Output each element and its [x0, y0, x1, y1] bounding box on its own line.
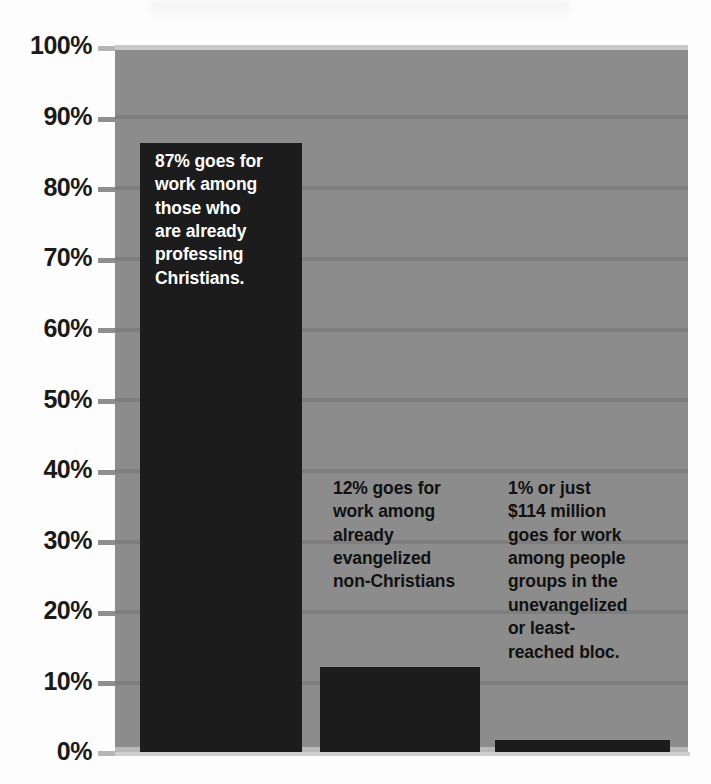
- bar-3-line-4: among people: [508, 547, 683, 570]
- bar-chart: 100% 90% 80% 70% 60% 50% 40% 30% 20% 10%…: [0, 0, 711, 784]
- y-axis-label-60: 60%: [0, 316, 92, 341]
- bar-3-line-5: groups in the: [508, 570, 683, 593]
- y-axis-label-50: 50%: [0, 387, 92, 412]
- bar-3-line-3: goes for work: [508, 524, 683, 547]
- gridline-90: [115, 115, 688, 119]
- bar-unevangelized-least-reached[interactable]: [495, 740, 670, 752]
- bar-3-line-1: 1% or just: [508, 477, 683, 500]
- bar-1-line-2: work among: [155, 173, 305, 196]
- bar-3-annotation: 1% or just $114 million goes for work am…: [508, 477, 683, 664]
- y-axis-label-40: 40%: [0, 457, 92, 482]
- y-axis-label-70: 70%: [0, 245, 92, 270]
- y-axis-label-20: 20%: [0, 598, 92, 623]
- bar-3-line-6: unevangelized: [508, 594, 683, 617]
- gridline-100: [115, 45, 688, 50]
- bar-1-line-6: Christians.: [155, 267, 305, 290]
- bar-evangelized-non-christians[interactable]: [320, 667, 480, 752]
- bar-3-line-2: $114 million: [508, 500, 683, 523]
- bar-2-line-2: work among: [333, 500, 493, 523]
- bar-1-line-3: those who: [155, 197, 305, 220]
- cropped-title-remnant: [150, 0, 570, 22]
- bar-3-line-7: or least-: [508, 617, 683, 640]
- bar-2-line-1: 12% goes for: [333, 477, 493, 500]
- y-axis-label-90: 90%: [0, 104, 92, 129]
- y-axis-label-100: 100%: [0, 33, 92, 58]
- y-axis-label-30: 30%: [0, 528, 92, 553]
- bar-1-line-4: are already: [155, 220, 305, 243]
- y-axis-label-80: 80%: [0, 175, 92, 200]
- bar-3-line-8: reached bloc.: [508, 641, 683, 664]
- y-axis-label-10: 10%: [0, 669, 92, 694]
- bar-1-line-5: professing: [155, 243, 305, 266]
- plot-area: 87% goes for work among those who are al…: [115, 45, 688, 752]
- bar-1-line-1: 87% goes for: [155, 150, 305, 173]
- y-axis-label-0: 0%: [0, 739, 92, 764]
- bar-2-line-3: already: [333, 524, 493, 547]
- bar-2-line-4: evangelized: [333, 547, 493, 570]
- bar-2-line-5: non-Christians: [333, 570, 493, 593]
- bar-2-annotation: 12% goes for work among already evangeli…: [333, 477, 493, 594]
- bar-1-annotation: 87% goes for work among those who are al…: [155, 150, 305, 290]
- plot-baseline-shadow: [115, 752, 690, 756]
